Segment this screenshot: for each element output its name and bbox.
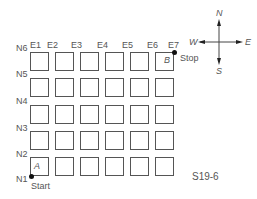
compass-west-label: W [189,38,198,47]
compass-east-label: E [245,38,251,47]
compass-south-label: S [216,67,222,76]
compass-north-label: N [216,9,223,18]
